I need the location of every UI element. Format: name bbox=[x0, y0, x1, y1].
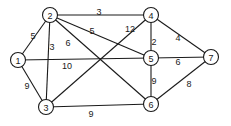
edge-2-5 bbox=[50, 15, 151, 58]
edge-5-7 bbox=[151, 57, 211, 58]
edge-4-7 bbox=[151, 15, 211, 57]
edge-2-3 bbox=[46, 15, 50, 107]
weighted-graph-diagram: 5910335612924968 1234567 bbox=[0, 0, 231, 126]
edge-1-3 bbox=[18, 60, 46, 107]
node-label: 7 bbox=[208, 53, 213, 63]
node-label: 5 bbox=[148, 54, 153, 64]
edge-weight-5-6: 9 bbox=[151, 76, 156, 86]
edge-weight-1-5: 10 bbox=[62, 61, 72, 71]
edge-weight-6-7: 8 bbox=[186, 79, 191, 89]
node-1: 1 bbox=[11, 53, 26, 68]
edge-weight-3-4: 12 bbox=[125, 24, 135, 34]
node-label: 4 bbox=[148, 11, 153, 21]
edges-layer bbox=[18, 15, 211, 107]
node-label: 1 bbox=[15, 56, 20, 66]
edge-weight-1-2: 5 bbox=[30, 31, 35, 41]
node-2: 2 bbox=[43, 8, 58, 23]
edge-weight-5-7: 6 bbox=[175, 57, 180, 67]
edge-3-6 bbox=[46, 104, 151, 107]
edge-6-7 bbox=[151, 57, 211, 104]
node-4: 4 bbox=[144, 8, 159, 23]
edge-weight-2-6: 6 bbox=[65, 38, 70, 48]
edge-weight-2-4: 3 bbox=[96, 7, 101, 17]
edge-weight-4-7: 4 bbox=[175, 33, 180, 43]
edge-weight-3-6: 9 bbox=[88, 109, 93, 119]
node-3: 3 bbox=[39, 100, 54, 115]
edge-1-5 bbox=[18, 58, 151, 60]
node-5: 5 bbox=[144, 51, 159, 66]
edge-weight-2-3: 3 bbox=[49, 42, 54, 52]
node-label: 2 bbox=[47, 11, 52, 21]
nodes-layer: 1234567 bbox=[11, 8, 219, 115]
edge-weight-1-3: 9 bbox=[24, 81, 29, 91]
node-6: 6 bbox=[144, 97, 159, 112]
node-7: 7 bbox=[204, 50, 219, 65]
edge-weight-4-5: 2 bbox=[151, 37, 156, 47]
node-label: 6 bbox=[148, 100, 153, 110]
node-label: 3 bbox=[43, 103, 48, 113]
edge-weight-2-5: 5 bbox=[89, 26, 94, 36]
